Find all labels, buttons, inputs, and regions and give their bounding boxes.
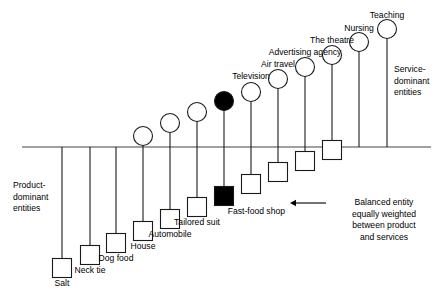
intangible-circle-marker bbox=[242, 83, 261, 102]
point-label-fast-food-shop: Fast-food shop bbox=[228, 206, 285, 216]
point-label-television: Television bbox=[232, 71, 270, 81]
entity-air-travel bbox=[269, 70, 288, 182]
intangible-circle-marker bbox=[296, 58, 315, 77]
tangibility-spectrum-figure: SaltNeck tieDog foodHouseAutomobileTailo… bbox=[0, 0, 444, 301]
entity-nursing bbox=[350, 33, 369, 148]
tangible-square-marker bbox=[242, 175, 261, 194]
point-label-nursing: Nursing bbox=[344, 23, 374, 33]
entity-house bbox=[134, 127, 153, 241]
entity-tailored-suit bbox=[188, 103, 207, 217]
point-label-advertising-agency: Advertising agency bbox=[269, 47, 342, 57]
tangible-square-marker bbox=[323, 141, 342, 160]
entity-the-theatre bbox=[323, 46, 342, 160]
point-label-tailored-suit: Tailored suit bbox=[174, 217, 220, 227]
entity-automobile bbox=[161, 114, 180, 229]
point-label-salt: Salt bbox=[55, 278, 70, 288]
annotation-arrow bbox=[290, 200, 326, 206]
point-label-the-theatre: The theatre bbox=[310, 35, 354, 45]
intangible-circle-marker bbox=[215, 92, 234, 111]
tangible-square-marker bbox=[53, 259, 72, 278]
annotation-arrowhead bbox=[290, 200, 296, 206]
entity-television bbox=[242, 83, 261, 194]
balanced-entity-annotation: Balanced entity equally weighted between… bbox=[331, 197, 437, 243]
entity-advertising-agency bbox=[296, 58, 315, 171]
point-label-dog-food: Dog food bbox=[99, 253, 134, 263]
service-dominant-entities-label: Service- dominant entities bbox=[394, 64, 444, 99]
product-dominant-entities-label: Product- dominant entities bbox=[13, 180, 71, 215]
point-label-air-travel: Air travel bbox=[261, 59, 295, 69]
entity-neck-tie bbox=[81, 147, 100, 265]
entity-fast-food-shop bbox=[215, 92, 234, 206]
point-label-automobile: Automobile bbox=[149, 229, 192, 239]
tangible-square-marker bbox=[107, 234, 126, 253]
tangible-square-marker bbox=[269, 163, 288, 182]
point-label-teaching: Teaching bbox=[370, 10, 404, 20]
point-label-house: House bbox=[131, 241, 156, 251]
intangible-circle-marker bbox=[269, 70, 288, 89]
intangible-circle-marker bbox=[161, 114, 180, 133]
tangible-square-marker bbox=[81, 246, 100, 265]
tangible-square-marker bbox=[296, 152, 315, 171]
plot-canvas bbox=[0, 0, 444, 301]
tangible-square-marker bbox=[215, 187, 234, 206]
entity-dog-food bbox=[107, 147, 126, 253]
intangible-circle-marker bbox=[188, 103, 207, 122]
intangible-circle-marker bbox=[378, 20, 397, 39]
point-label-neck-tie: Neck tie bbox=[74, 265, 105, 275]
intangible-circle-marker bbox=[134, 127, 153, 146]
tangible-square-marker bbox=[188, 198, 207, 217]
